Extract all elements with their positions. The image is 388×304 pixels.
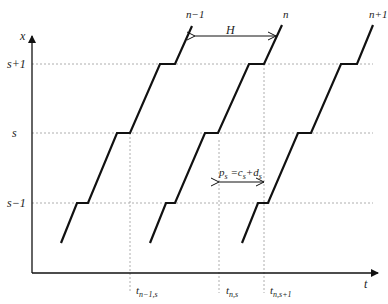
curve-label-n: n [283,9,289,20]
x-axis-label: x [20,30,25,42]
time-space-diagram [0,0,388,304]
curve-label-n-plus-1: n+1 [369,9,387,20]
level-label-s-minus-1: s−1 [7,197,26,209]
level-label-s-plus-1: s+1 [7,58,26,70]
trajectory-n [150,25,282,243]
curve-label-n-minus-1: n−1 [186,9,204,20]
headway-label: H [226,24,235,36]
time-label-t-n-minus-1-s: tn−1,s [136,285,158,299]
trajectory-n-minus-1 [61,26,192,243]
level-gridlines [32,64,373,203]
trajectory-n-plus-1 [242,25,373,243]
process-time-label: ps =cs+ds [219,167,262,181]
time-label-t-n-s-plus-1: tn,s+1 [270,285,292,299]
t-axis-label: t [364,278,367,290]
time-label-t-n-s: tn,s [226,285,238,299]
level-label-s: s [12,127,17,139]
